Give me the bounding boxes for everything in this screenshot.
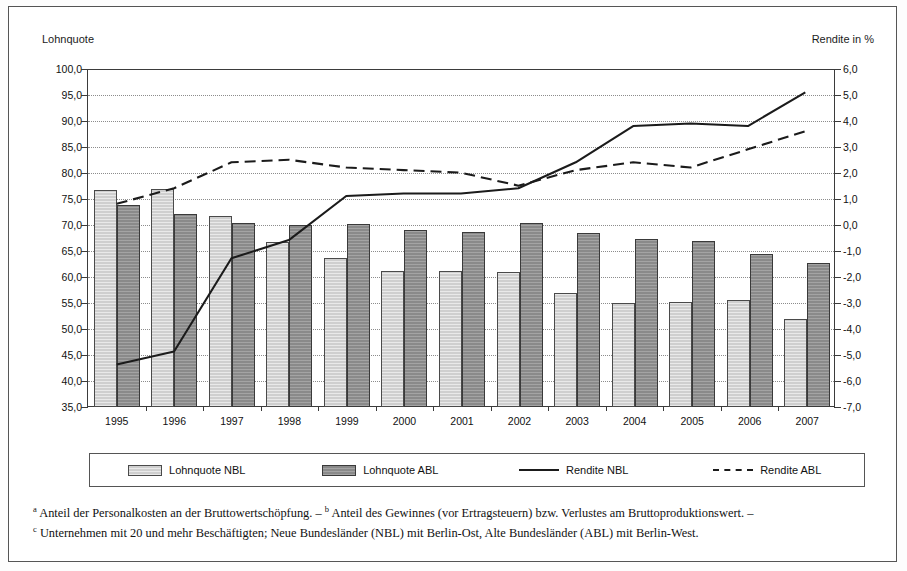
y-axis-tick-label: 90,0 [62, 115, 82, 127]
y2-axis-tick-mark [834, 95, 841, 96]
y2-axis-tick-label: -3,0 [843, 297, 861, 309]
right-axis-caption: Rendite in % [812, 33, 874, 45]
legend-label: Rendite NBL [566, 464, 628, 476]
x-axis-label-1999: 1999 [335, 415, 358, 427]
y2-axis-tick-mark [834, 303, 841, 304]
x-axis-tick-mark [663, 406, 664, 411]
y2-axis-tick-label: -1,0 [843, 245, 861, 257]
y2-axis-tick-mark [834, 173, 841, 174]
y-axis-tick-label: 65,0 [62, 245, 82, 257]
footnote-line-1: a Anteil der Personalkosten an der Brutt… [33, 503, 893, 523]
y-axis-tick-mark [81, 381, 88, 382]
y2-axis-tick-label: 2,0 [843, 167, 858, 179]
x-axis-tick-mark [376, 406, 377, 411]
y2-axis-tick-label: -5,0 [843, 349, 861, 361]
footnote-text-a: Anteil der Personalkosten an der Bruttow… [37, 506, 325, 520]
legend-item-1[interactable]: Lohnquote ABL [284, 464, 478, 476]
x-axis-tick-mark [721, 406, 722, 411]
legend-label: Lohnquote ABL [363, 464, 438, 476]
x-axis-tick-mark [491, 406, 492, 411]
legend-label: Lohnquote NBL [169, 464, 245, 476]
y2-axis-tick-label: -6,0 [843, 375, 861, 387]
x-axis-label-2001: 2001 [450, 415, 473, 427]
x-axis-tick-mark [318, 406, 319, 411]
footnote-text-b: Anteil des Gewinnes (vor Ertragsteuern) … [329, 506, 753, 520]
y-axis-tick-label: 50,0 [62, 323, 82, 335]
y-axis-tick-label: 40,0 [62, 375, 82, 387]
y-axis-tick-mark [81, 95, 88, 96]
legend-swatch-line-solid [519, 469, 559, 471]
x-axis-tick-mark [261, 406, 262, 411]
plot-area: 100,095,090,085,080,075,070,065,060,055,… [87, 69, 835, 407]
y2-axis-tick-label: 6,0 [843, 63, 858, 75]
footnote-text-c: Unternehmen mit 20 und mehr Beschäftigte… [37, 526, 699, 540]
plot-area-wrapper: 100,095,090,085,080,075,070,065,060,055,… [39, 62, 884, 414]
legend-item-0[interactable]: Lohnquote NBL [90, 464, 284, 476]
chart-frame: Lohnquote Rendite in % 100,095,090,085,0… [8, 6, 897, 562]
x-axis-tick-mark [548, 406, 549, 411]
chart-legend: Lohnquote NBLLohnquote ABLRendite NBLRen… [89, 453, 865, 487]
y2-axis-tick-mark [834, 147, 841, 148]
x-axis-label-2005: 2005 [680, 415, 703, 427]
legend-item-2[interactable]: Rendite NBL [477, 464, 671, 476]
y-axis-tick-mark [81, 69, 88, 70]
x-axis-label-2002: 2002 [508, 415, 531, 427]
chart-screenshot: Lohnquote Rendite in % 100,095,090,085,0… [0, 0, 907, 571]
y-axis-tick-label: 80,0 [62, 167, 82, 179]
y2-axis-tick-mark [834, 199, 841, 200]
legend-swatch-line-dashed [713, 469, 753, 471]
y2-axis-tick-mark [834, 225, 841, 226]
line-rendite-nbl [117, 92, 806, 364]
x-axis-label-1996: 1996 [163, 415, 186, 427]
y2-axis-tick-mark [834, 251, 841, 252]
y-axis-tick-mark [81, 329, 88, 330]
y2-axis-tick-label: 3,0 [843, 141, 858, 153]
y2-axis-tick-label: -7,0 [843, 401, 861, 413]
y-axis-tick-label: 45,0 [62, 349, 82, 361]
y2-axis-tick-mark [834, 277, 841, 278]
y2-axis-tick-mark [834, 381, 841, 382]
y2-axis-tick-mark [834, 121, 841, 122]
y-axis-tick-mark [81, 251, 88, 252]
y-axis-tick-mark [81, 121, 88, 122]
x-axis-label-1998: 1998 [278, 415, 301, 427]
x-axis-tick-mark [606, 406, 607, 411]
x-axis-tick-mark [203, 406, 204, 411]
y-axis-tick-mark [81, 199, 88, 200]
x-axis-label-1995: 1995 [105, 415, 128, 427]
y-axis-tick-label: 100,0 [56, 63, 82, 75]
x-axis-tick-mark [433, 406, 434, 411]
y2-axis-tick-mark [834, 329, 841, 330]
y-axis-tick-mark [81, 173, 88, 174]
x-axis-label-2004: 2004 [623, 415, 646, 427]
legend-swatch-bar-dark [322, 465, 356, 476]
y2-axis-tick-label: 0,0 [843, 219, 858, 231]
legend-item-3[interactable]: Rendite ABL [671, 464, 865, 476]
y2-axis-tick-mark [834, 355, 841, 356]
y-axis-tick-label: 75,0 [62, 193, 82, 205]
y-axis-tick-mark [81, 277, 88, 278]
y-axis-tick-label: 55,0 [62, 297, 82, 309]
legend-label: Rendite ABL [760, 464, 821, 476]
y-axis-tick-mark [81, 355, 88, 356]
y-axis-tick-label: 70,0 [62, 219, 82, 231]
y2-axis-tick-mark [834, 69, 841, 70]
y2-axis-tick-label: 1,0 [843, 193, 858, 205]
y2-axis-tick-label: 5,0 [843, 89, 858, 101]
y-axis-tick-mark [81, 303, 88, 304]
x-axis-label-1997: 1997 [220, 415, 243, 427]
y-axis-tick-label: 60,0 [62, 271, 82, 283]
x-axis-label-2003: 2003 [565, 415, 588, 427]
y-axis-tick-mark [81, 407, 88, 408]
y-axis-tick-mark [81, 225, 88, 226]
x-axis-label-2000: 2000 [393, 415, 416, 427]
y-axis-tick-mark [81, 147, 88, 148]
y2-axis-tick-label: -4,0 [843, 323, 861, 335]
y2-axis-tick-label: -2,0 [843, 271, 861, 283]
y-axis-tick-label: 85,0 [62, 141, 82, 153]
lines-layer [88, 69, 834, 406]
y-axis-tick-label: 95,0 [62, 89, 82, 101]
footnotes: a Anteil der Personalkosten an der Brutt… [33, 503, 893, 542]
footnote-line-2: c Unternehmen mit 20 und mehr Beschäftig… [33, 523, 893, 543]
y2-axis-tick-label: 4,0 [843, 115, 858, 127]
